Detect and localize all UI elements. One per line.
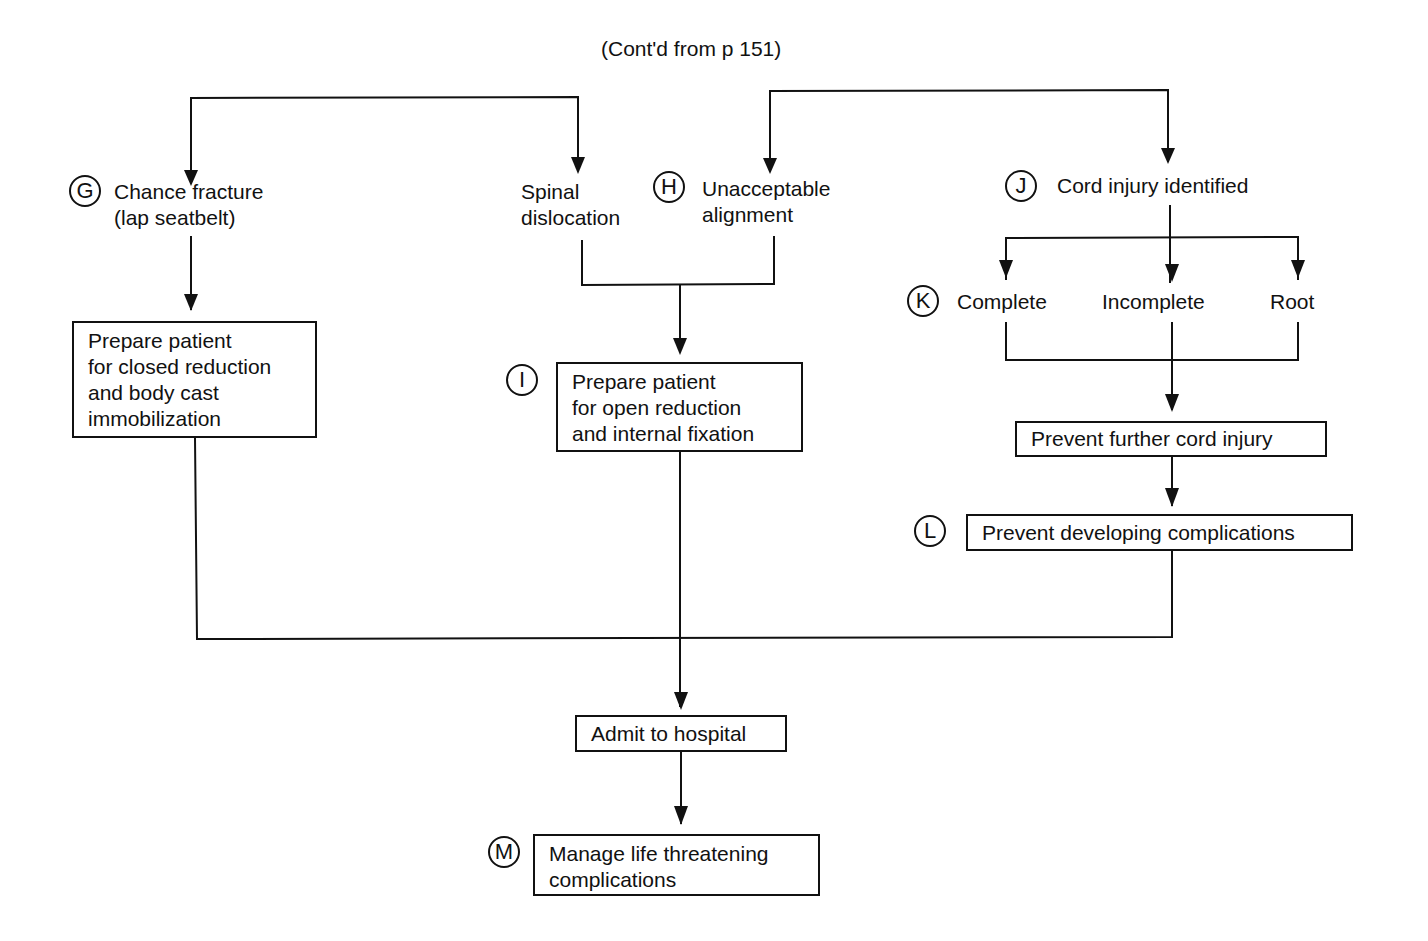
manage-complications-box: Manage life threatening complications (533, 834, 820, 896)
marker-j-icon: J (1005, 170, 1037, 202)
continuation-note: (Cont'd from p 151) (601, 36, 781, 62)
cord-injury-label: Cord injury identified (1057, 173, 1248, 199)
prevent-cord-injury-text: Prevent further cord injury (1031, 426, 1325, 452)
marker-k-icon: K (907, 285, 939, 317)
admit-hospital-box: Admit to hospital (575, 715, 787, 752)
marker-m-icon: M (488, 836, 520, 868)
manage-complications-text: Manage life threatening complications (549, 841, 818, 893)
prevent-complications-box: Prevent developing complications (966, 514, 1353, 551)
root-label: Root (1270, 289, 1314, 315)
admit-hospital-text: Admit to hospital (591, 721, 785, 747)
closed-reduction-text: Prepare patient for closed reduction and… (88, 328, 315, 432)
incomplete-label: Incomplete (1102, 289, 1205, 315)
marker-l-icon: L (914, 515, 946, 547)
marker-g-icon: G (69, 175, 101, 207)
flowchart-connectors (0, 0, 1428, 941)
prevent-complications-text: Prevent developing complications (982, 520, 1351, 546)
marker-i-icon: I (506, 364, 538, 396)
open-reduction-text: Prepare patient for open reduction and i… (572, 369, 801, 447)
spinal-dislocation-label: Spinal dislocation (521, 179, 620, 231)
prevent-cord-injury-box: Prevent further cord injury (1015, 421, 1327, 457)
complete-label: Complete (957, 289, 1047, 315)
chance-fracture-label: Chance fracture (lap seatbelt) (114, 179, 263, 231)
marker-h-icon: H (653, 171, 685, 203)
open-reduction-box: Prepare patient for open reduction and i… (556, 362, 803, 452)
unacceptable-alignment-label: Unacceptable alignment (702, 176, 830, 228)
closed-reduction-box: Prepare patient for closed reduction and… (72, 321, 317, 438)
